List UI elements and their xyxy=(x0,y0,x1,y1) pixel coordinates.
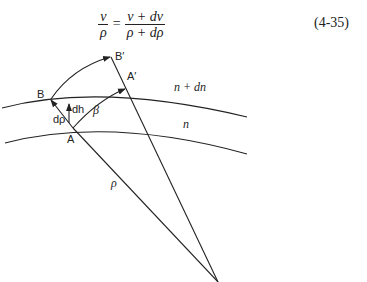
radius-line-rho xyxy=(73,128,218,282)
label-n: n xyxy=(183,117,189,132)
label-rho: ρ xyxy=(111,176,117,191)
label-beta: β xyxy=(93,103,99,118)
curve-n xyxy=(5,132,247,154)
label-n-plus-dn: n + dn xyxy=(174,80,206,95)
label-A-prime: A′ xyxy=(127,70,136,82)
label-A: A xyxy=(67,133,74,145)
label-B-prime: B′ xyxy=(115,50,124,62)
b-to-b-prime-arrow xyxy=(51,57,110,99)
geometry-diagram xyxy=(0,0,367,282)
label-d-rho: dρ xyxy=(53,113,65,125)
label-B: B xyxy=(37,88,44,100)
label-dh: dh xyxy=(72,103,84,115)
